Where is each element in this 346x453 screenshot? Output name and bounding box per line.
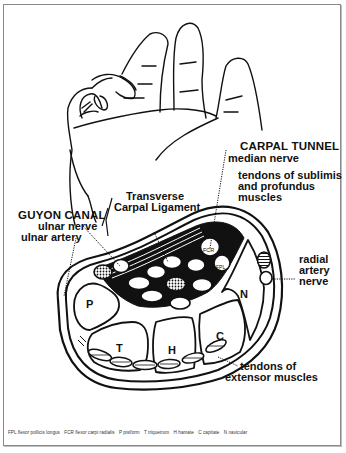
radial-label-line-3: nerve — [299, 275, 328, 287]
legend-p: P pisiform — [119, 430, 140, 435]
radial-artery-circle — [258, 252, 271, 268]
median-nerve-label: median nerve — [228, 152, 299, 164]
legend-c: C capitate — [198, 430, 219, 435]
bone-label-capitate: C — [216, 330, 224, 342]
radial-nerve-circle — [260, 272, 272, 285]
bone-label-triquetrum: T — [116, 342, 123, 354]
legend-n: N navicular — [224, 430, 248, 435]
fpl-tag: FPL — [216, 261, 225, 273]
bone-label-hamate: H — [168, 344, 176, 356]
extensor-label-line-2: extensor muscles — [225, 371, 318, 383]
legend-fcr: FCR flexor carpi radialis — [64, 430, 114, 435]
transverse-label-line-2: Carpal Ligament — [114, 201, 200, 213]
median-nerve-circle — [166, 277, 186, 291]
bone-label-navicular: N — [240, 288, 248, 300]
abbreviation-legend: FPL flexor pollicis longus FCR flexor ca… — [8, 430, 250, 435]
carpal-tunnel-title: CARPAL TUNNEL — [240, 140, 339, 152]
legend-fpl: FPL flexor pollicis longus — [8, 430, 60, 435]
legend-h: H hamate — [174, 430, 194, 435]
legend-t: T triquetrum — [144, 430, 169, 435]
flexor-tendons-line-3: muscles — [238, 191, 282, 203]
ulnar-artery-label: ulnar artery — [21, 231, 82, 243]
bone-label-pisiform: P — [86, 298, 93, 310]
fcr-tag: FCR — [203, 244, 214, 256]
ulnar-artery-circle — [94, 265, 112, 279]
